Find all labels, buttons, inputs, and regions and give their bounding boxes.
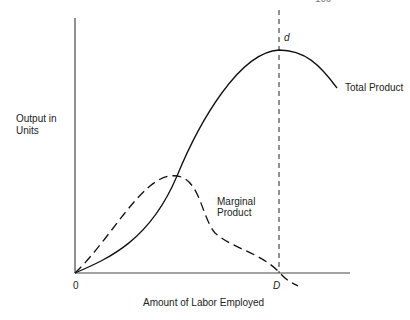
x-axis-label: Amount of Labor Employed <box>143 296 264 309</box>
d-peak-label: d <box>284 31 290 44</box>
total-product-curve <box>75 50 337 273</box>
y-axis-label-line2: Units <box>16 124 39 137</box>
origin-label: 0 <box>73 279 79 292</box>
d-x-label: D <box>273 279 280 292</box>
marginal-product-label-line2: Product <box>217 206 251 219</box>
chart-canvas <box>0 0 410 320</box>
marginal-product-curve <box>75 176 298 286</box>
total-product-label: Total Product <box>345 81 403 94</box>
